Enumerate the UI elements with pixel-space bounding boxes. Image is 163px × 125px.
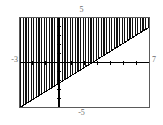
y-axis-min-label: -5 (0, 108, 163, 117)
x-axis-min-label: -3 (1, 55, 18, 64)
y-axis-max-label: 5 (0, 5, 163, 14)
plot-frame[interactable] (19, 17, 150, 108)
inequality-graph-widget: 5 -3 7 -5 (0, 0, 163, 125)
plot-area (20, 18, 149, 107)
x-axis-max-label: 7 (152, 55, 163, 64)
plot-canvas (20, 18, 149, 107)
